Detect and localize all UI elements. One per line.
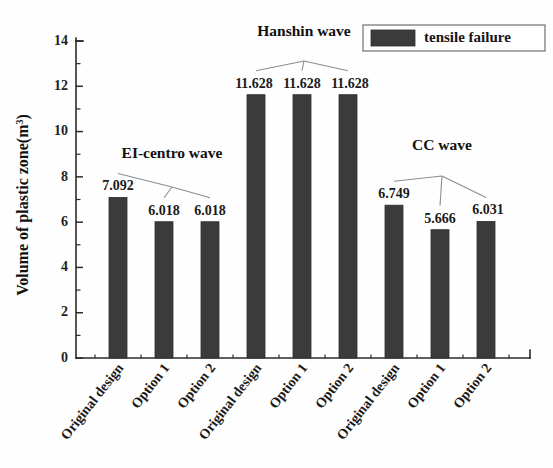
bar-value-label: 7.092: [102, 178, 134, 193]
y-tick-label: 6: [61, 214, 68, 229]
bar[interactable]: [247, 95, 265, 358]
legend[interactable]: tensile failure: [363, 25, 545, 51]
bar-value-label: 6.018: [194, 203, 226, 218]
y-tick-label: 8: [61, 169, 68, 184]
y-tick-label: 14: [54, 33, 68, 48]
bar[interactable]: [431, 230, 449, 358]
bar[interactable]: [109, 197, 127, 358]
bar[interactable]: [155, 222, 173, 358]
bar[interactable]: [293, 95, 311, 358]
legend-swatch-tensile-failure: [371, 30, 415, 46]
x-axis-category-label: Option 1: [266, 361, 310, 412]
chart-figure: Volume of plastic zone(m3) 02468101214 7…: [0, 0, 553, 468]
bar-value-label: 6.749: [378, 186, 410, 201]
x-axis-category-labels: Original designOption 1Option 2Original …: [58, 360, 495, 442]
x-axis-category-label: Option 2: [450, 361, 494, 412]
bar[interactable]: [385, 205, 403, 358]
y-tick-label: 2: [61, 304, 68, 319]
group-leader-line: [394, 176, 442, 181]
x-axis-category-label: Option 1: [128, 361, 172, 412]
group-annotation-label: Hanshin wave: [257, 22, 351, 39]
y-tick-label: 0: [61, 350, 68, 365]
bar[interactable]: [477, 221, 495, 358]
y-axis-label-main: Volume of plastic zone(m: [14, 124, 32, 296]
group-annotation-label: EI-centro wave: [122, 144, 223, 161]
group-leader-line: [164, 187, 172, 198]
y-tick-label: 12: [54, 78, 68, 93]
group-leader-line: [442, 176, 486, 197]
bar-value-label: 11.628: [235, 76, 273, 91]
svg-text:Volume of plastic zone(m3): Volume of plastic zone(m3): [14, 114, 33, 296]
group-leader-line: [440, 176, 442, 206]
bar-value-label: 11.628: [283, 76, 321, 91]
y-axis-label-suffix: ): [14, 114, 32, 119]
y-axis-label: Volume of plastic zone(m3): [14, 114, 33, 296]
x-axis-category-label: Option 2: [312, 361, 356, 412]
group-leader-line: [172, 187, 210, 198]
bars-container: [109, 95, 495, 358]
x-axis-category-label: Option 2: [174, 361, 218, 412]
legend-label-tensile-failure: tensile failure: [424, 29, 511, 45]
bar-value-label: 6.031: [472, 202, 504, 217]
x-axis-category-label: Option 1: [404, 361, 448, 412]
y-tick-label: 4: [61, 259, 68, 274]
bar[interactable]: [201, 222, 219, 358]
bar-value-label: 6.018: [148, 203, 180, 218]
bar-chart-svg: Volume of plastic zone(m3) 02468101214 7…: [0, 0, 553, 468]
bar-value-label: 5.666: [424, 211, 456, 226]
group-leader-line: [302, 61, 304, 71]
group-leader-line: [256, 61, 304, 71]
y-axis-ticks: 02468101214: [54, 33, 83, 365]
group-annotation-label: CC wave: [412, 136, 472, 153]
bar-value-label: 11.628: [331, 76, 369, 91]
y-tick-label: 10: [54, 123, 68, 138]
bar[interactable]: [339, 95, 357, 358]
group-leader-line: [304, 61, 348, 71]
x-axis-category-label: Original design: [58, 360, 127, 442]
